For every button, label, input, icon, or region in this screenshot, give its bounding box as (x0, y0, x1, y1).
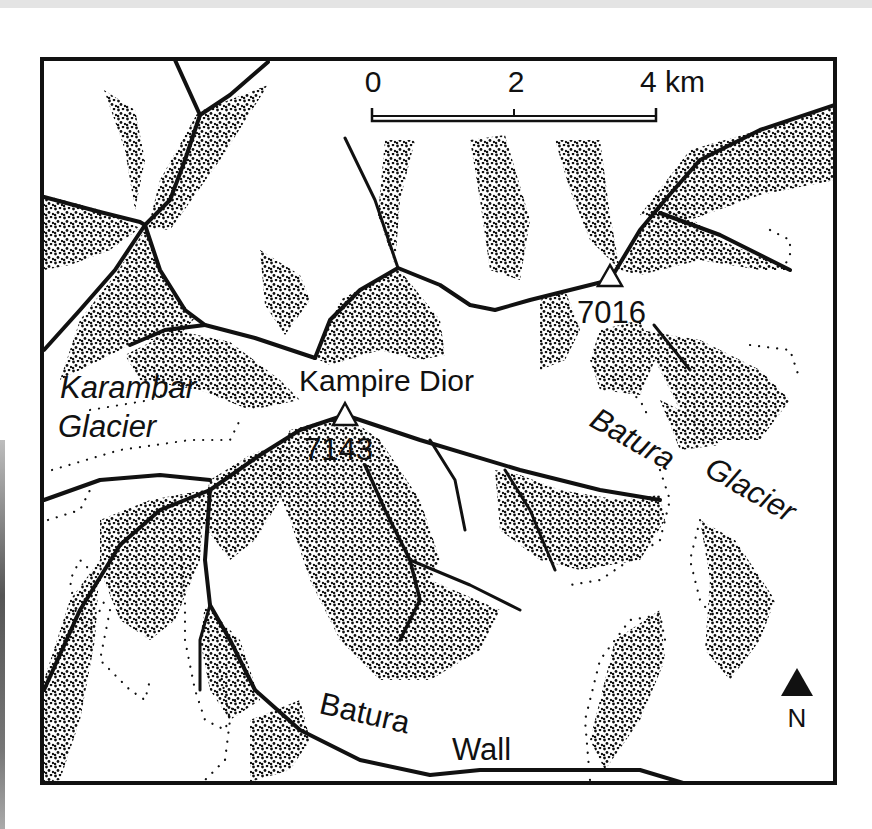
scale-bar: 0 2 4 km (365, 65, 705, 121)
peak-triangle-icon (333, 403, 357, 425)
label-karambar: Karambar (60, 370, 198, 405)
label-kampire-dior: Kampire Dior (299, 364, 474, 397)
stippled-terrain (44, 85, 835, 782)
north-arrow: N (781, 668, 813, 733)
peak-kampire-dior: 7143 (304, 403, 373, 467)
label-karambar-glacier: Glacier (58, 409, 158, 444)
scale-tick-4km: 4 km (640, 65, 705, 98)
scale-tick-2: 2 (508, 65, 525, 98)
north-label: N (788, 703, 807, 733)
peak-elevation-7143: 7143 (304, 432, 373, 467)
label-batura-wall-2: Wall (452, 732, 511, 767)
topographic-map: 0 2 4 km 7016 7143 Kampire Dior Karambar… (0, 0, 872, 829)
label-batura-glacier: Glacier (700, 450, 804, 530)
peak-elevation-7016: 7016 (577, 295, 646, 330)
north-arrow-icon (781, 668, 813, 696)
scale-tick-0: 0 (365, 65, 382, 98)
label-batura-wall-1: Batura (316, 686, 414, 741)
peak-7016: 7016 (577, 265, 646, 330)
